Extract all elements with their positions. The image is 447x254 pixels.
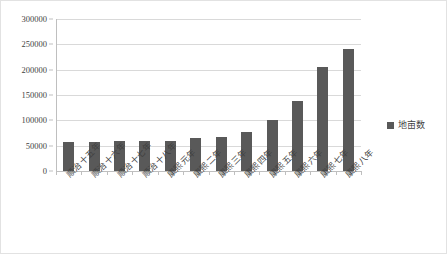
y-axis: 050000100000150000200000250000300000 [1,19,53,171]
y-tick-label: 150000 [22,91,48,100]
y-tick-mark [49,120,53,121]
bar [292,101,303,171]
y-tick-label: 300000 [22,15,48,24]
legend-square-marker-icon [387,122,394,129]
y-tick-mark [49,44,53,45]
bar-chart: 050000100000150000200000250000300000 顺治十… [0,0,447,254]
y-tick-mark [49,171,53,172]
y-tick-label: 50000 [26,141,47,150]
chart-legend: 地亩数 [387,121,425,130]
legend-label: 地亩数 [398,121,425,130]
x-axis-labels: 顺治十五年顺治十六年顺治十七年顺治十八年康熙元年康熙二年康熙三年康熙四年康熙五年… [1,173,381,253]
y-tick-label: 200000 [22,65,48,74]
y-tick-mark [49,69,53,70]
y-tick-label: 250000 [22,40,48,49]
y-tick-mark [49,145,53,146]
y-tick-label: 100000 [22,116,48,125]
y-tick-mark [49,19,53,20]
y-tick-mark [49,95,53,96]
